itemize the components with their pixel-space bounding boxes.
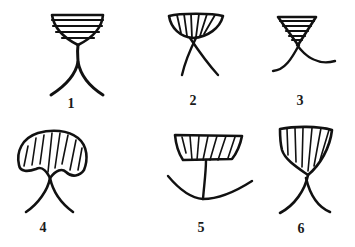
figure-4-glyph: [18, 131, 86, 212]
figure-6-label: 6: [291, 222, 311, 236]
figure-1-label: 1: [61, 97, 81, 111]
figure-2-label: 2: [183, 94, 203, 108]
figure-1-glyph: [51, 15, 103, 95]
figure-3-glyph: [273, 17, 335, 71]
figure-2-glyph: [169, 14, 223, 75]
figure-3-label: 3: [290, 94, 310, 108]
figure-4-label: 4: [33, 221, 53, 235]
figure-5-glyph: [168, 135, 252, 199]
figure-5-label: 5: [191, 221, 211, 235]
glyph-diagram: 1 2 3 4 5 6: [0, 0, 355, 247]
figure-6-glyph: [280, 127, 332, 213]
